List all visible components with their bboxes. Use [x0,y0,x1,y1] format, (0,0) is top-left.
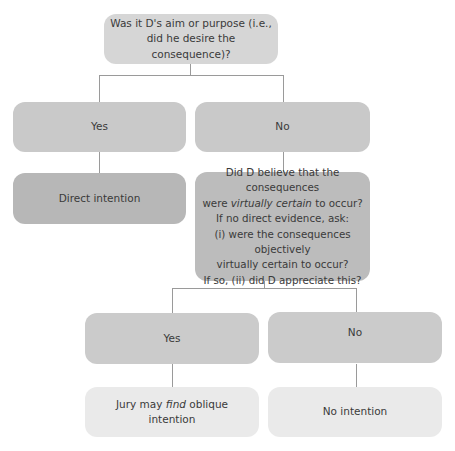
connector-to-yes [99,75,100,102]
direct-intention-node: Direct intention [13,173,186,224]
question-line4: (i) were the consequences objectively [214,228,350,255]
yes-label-2: Yes [164,331,181,346]
connector-yes-to-direct [99,152,100,173]
root-question-node: Was it D's aim or purpose (i.e., did he … [104,14,278,64]
root-question-line2: did he desire the consequence)? [147,32,236,59]
no-node: No [195,102,370,152]
question-line2-post: to occur? [312,197,363,209]
connector-root-down [190,64,191,75]
no-intention-label: No intention [323,404,388,419]
connector-to-yes2 [172,288,173,313]
virtual-certainty-question-node: Did D believe that the consequences were… [195,172,370,281]
question-line5: virtually certain to occur? [217,258,349,270]
oblique-intention-node: Jury may find oblique intention [85,387,259,437]
connector-to-no [283,75,284,102]
question-line2-emphasis: virtually certain [231,197,312,209]
no-label: No [275,119,289,134]
connector-to-no2 [356,288,357,313]
no-label-2: No [348,325,362,340]
connector-no2-to-no-intention [356,364,357,387]
question-line3: If no direct evidence, ask: [216,212,349,224]
no-node-2: No [268,312,442,363]
root-question-line1: Was it D's aim or purpose (i.e., [110,17,272,29]
oblique-pre: Jury may [116,398,166,410]
no-intention-node: No intention [268,387,442,437]
connector-yes2-to-oblique [172,364,173,387]
connector-level2-horizontal [99,75,284,76]
yes-node: Yes [13,102,186,152]
yes-node-2: Yes [85,313,259,364]
oblique-emphasis: find [166,398,186,410]
yes-label: Yes [91,119,108,134]
question-line6: If so, (ii) did D appreciate this? [203,274,361,286]
question-line2-pre: were [202,197,230,209]
direct-intention-label: Direct intention [59,191,141,206]
question-line1: Did D believe that the consequences [226,166,340,193]
